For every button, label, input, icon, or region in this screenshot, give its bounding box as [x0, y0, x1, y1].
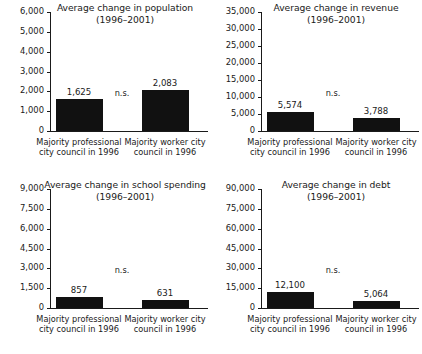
x-axis-line — [50, 131, 208, 132]
y-tick-mark — [47, 12, 50, 13]
panel-title-period: (1996–2001) — [40, 14, 210, 26]
y-axis-tick: 6,000 — [50, 229, 51, 230]
bar — [56, 297, 103, 308]
y-axis-tick: 25,000 — [261, 46, 262, 47]
x-axis-line — [261, 308, 419, 309]
x-axis-category-label: Majority professionalcity council in 199… — [242, 137, 338, 158]
x-axis-category-label-line: city council in 1996 — [242, 324, 338, 334]
y-tick-label: 1,000 — [20, 105, 44, 116]
y-tick-label: 60,000 — [226, 223, 255, 234]
y-tick-label: 9,000 — [20, 183, 44, 194]
bar — [353, 118, 400, 131]
y-tick-mark — [47, 111, 50, 112]
y-axis-tick: 90,000 — [261, 189, 262, 190]
y-tick-mark — [258, 46, 261, 47]
x-axis-category-label: Majority worker citycouncil in 1996 — [328, 314, 422, 335]
x-axis-category-label-line: council in 1996 — [117, 147, 213, 157]
x-axis-category-label-line: council in 1996 — [117, 324, 213, 334]
bar-value-label: 857 — [39, 285, 119, 295]
y-tick-mark — [258, 80, 261, 81]
y-axis-tick: 0 — [261, 131, 262, 132]
x-axis-line — [261, 131, 419, 132]
y-tick-label: 4,000 — [20, 46, 44, 57]
x-axis-category-label: Majority professionalcity council in 199… — [31, 137, 127, 158]
y-tick-mark — [258, 114, 261, 115]
significance-annotation: n.s. — [97, 88, 147, 98]
y-axis-tick: 35,000 — [261, 12, 262, 13]
panel-title: Average change in school spending(1996–2… — [40, 179, 210, 202]
y-tick-label: 3,000 — [20, 262, 44, 273]
y-axis-tick: 3,000 — [50, 268, 51, 269]
panel-title: Average change in revenue(1996–2001) — [251, 2, 421, 25]
panel-title: Average change in debt(1996–2001) — [251, 179, 421, 202]
y-tick-mark — [258, 29, 261, 30]
x-axis-category-label: Majority professionalcity council in 199… — [31, 314, 127, 335]
x-axis-category-label-line: Majority professional — [242, 137, 338, 147]
y-tick-label: 7,500 — [20, 203, 44, 214]
bar — [353, 301, 400, 308]
bar — [56, 99, 103, 131]
y-tick-mark — [258, 209, 261, 210]
y-axis-tick: 60,000 — [261, 229, 262, 230]
y-tick-mark — [258, 268, 261, 269]
y-axis-tick: 4,000 — [50, 52, 51, 53]
panel-title-main: Average change in debt — [282, 179, 391, 190]
x-axis-category-label-line: Majority professional — [31, 137, 127, 147]
y-tick-label: 0 — [39, 125, 44, 136]
y-tick-mark — [258, 63, 261, 64]
significance-annotation: n.s. — [97, 265, 147, 275]
panel-title: Average change in population(1996–2001) — [40, 2, 210, 25]
bar-value-label: 5,064 — [336, 289, 416, 299]
y-tick-label: 4,500 — [20, 243, 44, 254]
y-tick-mark — [47, 229, 50, 230]
x-axis-category-label-line: Majority worker city — [328, 137, 422, 147]
y-tick-label: 15,000 — [226, 74, 255, 85]
y-tick-mark — [47, 249, 50, 250]
x-axis-category-label-line: city council in 1996 — [31, 147, 127, 157]
bar-value-label: 631 — [125, 288, 205, 298]
y-tick-mark — [47, 268, 50, 269]
chart-panel: Average change in population(1996–2001)0… — [0, 0, 211, 177]
x-axis-category-label-line: council in 1996 — [328, 324, 422, 334]
y-tick-mark — [47, 131, 50, 132]
y-tick-label: 25,000 — [226, 40, 255, 51]
y-axis-tick: 4,500 — [50, 249, 51, 250]
chart-panel: Average change in school spending(1996–2… — [0, 177, 211, 354]
significance-annotation: n.s. — [308, 88, 358, 98]
x-axis-category-label-line: council in 1996 — [328, 147, 422, 157]
y-tick-mark — [47, 209, 50, 210]
y-axis-tick: 9,000 — [50, 189, 51, 190]
y-axis-tick: 7,500 — [50, 209, 51, 210]
y-tick-label: 20,000 — [226, 57, 255, 68]
bar-value-label: 3,788 — [336, 106, 416, 116]
y-axis-tick: 1,000 — [50, 111, 51, 112]
y-tick-label: 6,000 — [20, 6, 44, 17]
x-axis-category-label-line: Majority worker city — [328, 314, 422, 324]
y-tick-label: 6,000 — [20, 223, 44, 234]
y-tick-mark — [47, 52, 50, 53]
y-tick-label: 5,000 — [20, 26, 44, 37]
bar — [142, 300, 189, 308]
x-axis-category-label-line: city council in 1996 — [31, 324, 127, 334]
y-tick-mark — [258, 97, 261, 98]
bar-value-label: 5,574 — [250, 100, 330, 110]
y-axis-tick: 30,000 — [261, 268, 262, 269]
y-tick-label: 0 — [39, 302, 44, 313]
x-axis-category-label-line: Majority professional — [31, 314, 127, 324]
bar — [267, 112, 314, 131]
y-tick-mark — [258, 229, 261, 230]
y-tick-mark — [258, 189, 261, 190]
x-axis-category-label-line: city council in 1996 — [242, 147, 338, 157]
multi-panel-bar-chart-figure: Average change in population(1996–2001)0… — [0, 0, 422, 354]
y-tick-label: 90,000 — [226, 183, 255, 194]
y-tick-label: 35,000 — [226, 6, 255, 17]
y-axis-tick: 10,000 — [261, 97, 262, 98]
panel-title-period: (1996–2001) — [251, 14, 421, 26]
y-tick-mark — [47, 189, 50, 190]
x-axis-category-label-line: Majority worker city — [117, 137, 213, 147]
y-tick-label: 0 — [250, 302, 255, 313]
y-tick-mark — [47, 308, 50, 309]
y-axis-tick: 45,000 — [261, 249, 262, 250]
y-axis-tick: 75,000 — [261, 209, 262, 210]
chart-panel: Average change in revenue(1996–2001)05,0… — [211, 0, 422, 177]
